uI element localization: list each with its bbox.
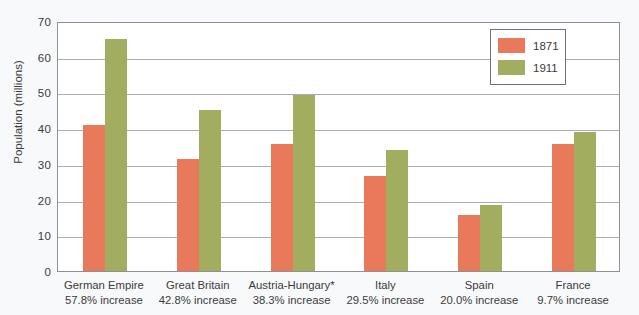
- x-axis-category-labels: German Empire57.8% increaseGreat Britain…: [57, 278, 620, 314]
- bar-1871-austriahungary: [271, 144, 293, 271]
- legend-swatch-1871: [498, 38, 525, 53]
- bar-1911-greatbritain: [199, 110, 221, 271]
- category-increase: 42.8% increase: [151, 293, 245, 308]
- population-bar-chart: Population (millions) 706050403020100 Ge…: [0, 0, 639, 315]
- y-axis-tick-label: 60: [5, 52, 51, 64]
- bar-1911-france: [574, 132, 596, 271]
- y-axis-tick-label: 0: [5, 266, 51, 278]
- category-name: France: [526, 278, 620, 293]
- legend-entry-1911: 1911: [498, 59, 558, 76]
- category-name: Austria-Hungary*: [245, 278, 339, 293]
- category-name: Great Britain: [151, 278, 245, 293]
- bar-1911-germanempire: [105, 39, 127, 271]
- bar-1871-italy: [364, 176, 386, 271]
- category-increase: 57.8% increase: [57, 293, 151, 308]
- bar-group: [177, 23, 221, 271]
- y-axis-tick-label: 70: [5, 16, 51, 28]
- category-increase: 29.5% increase: [339, 293, 433, 308]
- bar-1911-austriahungary: [293, 95, 315, 271]
- x-axis-category: France9.7% increase: [526, 278, 620, 307]
- y-axis-tick-label: 50: [5, 87, 51, 99]
- category-increase: 20.0% increase: [432, 293, 526, 308]
- y-axis-tick-label: 30: [5, 159, 51, 171]
- category-increase: 9.7% increase: [526, 293, 620, 308]
- x-axis-category: Italy29.5% increase: [339, 278, 433, 307]
- legend-label-1871: 1871: [533, 40, 559, 52]
- legend-label-1911: 1911: [533, 62, 558, 74]
- x-axis-category: German Empire57.8% increase: [57, 278, 151, 307]
- category-name: Italy: [339, 278, 433, 293]
- legend-entry-1871: 1871: [498, 37, 559, 54]
- bar-1871-france: [552, 144, 574, 271]
- category-name: German Empire: [57, 278, 151, 293]
- y-axis-tick-label: 10: [5, 230, 51, 242]
- bar-1911-italy: [386, 150, 408, 271]
- bar-group: [83, 23, 127, 271]
- x-axis-category: Great Britain42.8% increase: [151, 278, 245, 307]
- bar-group: [364, 23, 408, 271]
- bar-1871-greatbritain: [177, 159, 199, 272]
- category-increase: 38.3% increase: [245, 293, 339, 308]
- gridline: [58, 202, 619, 203]
- bar-group: [271, 23, 315, 271]
- legend-swatch-1911: [498, 60, 525, 75]
- chart-legend: 18711911: [490, 29, 566, 85]
- gridline: [58, 166, 619, 167]
- bar-1871-spain: [458, 215, 480, 271]
- bar-1911-spain: [480, 205, 502, 271]
- gridline: [58, 130, 619, 131]
- category-name: Spain: [432, 278, 526, 293]
- y-axis-tick-labels: 706050403020100: [0, 22, 51, 272]
- y-axis-tick-label: 20: [5, 195, 51, 207]
- gridline: [58, 237, 619, 238]
- x-axis-category: Spain20.0% increase: [432, 278, 526, 307]
- x-axis-category: Austria-Hungary*38.3% increase: [245, 278, 339, 307]
- bar-1871-germanempire: [83, 125, 105, 271]
- gridline: [58, 94, 619, 95]
- y-axis-tick-label: 40: [5, 123, 51, 135]
